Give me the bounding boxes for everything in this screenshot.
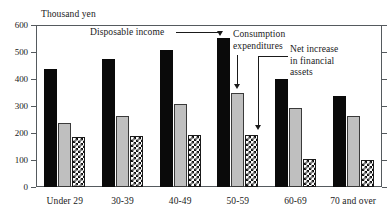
bar-disposable-income [275,79,288,187]
annotation-disposable-income-arrow [217,31,223,36]
bar-group [44,25,85,187]
bar-net-increase-in-financial-assets [188,135,201,187]
y-axis-tick-right [382,133,387,134]
annotation-disposable-income-leader [176,32,220,33]
y-axis-tick-label: 100 [0,156,28,165]
bar-net-increase-in-financial-assets [245,135,258,187]
y-axis-tick-right [382,187,387,188]
y-axis-tick-label: 600 [0,21,28,30]
bar-disposable-income [333,96,346,187]
x-axis-category-label: 50-59 [209,196,267,207]
x-axis-category-label: 40-49 [151,196,209,207]
annotation-net-increase-leader-v [258,56,259,126]
bar-disposable-income [217,38,230,187]
y-axis-tick [31,79,36,80]
y-axis-tick-right [382,79,387,80]
y-axis-tick-label: 200 [0,129,28,138]
y-axis-tick [31,160,36,161]
annotation-consumption-expenditures: Consumption expenditures [233,29,285,52]
annotation-consumption-expenditures-leader [237,55,238,85]
x-axis-category-label: 70 and over [324,196,382,207]
bar-disposable-income [102,59,115,187]
bar-disposable-income [44,69,57,187]
bar-group [333,25,374,187]
annotation-consumption-expenditures-arrow [234,84,240,89]
x-axis-category-label: 60-69 [267,196,325,207]
bar-group [102,25,143,187]
y-axis-tick-label: 500 [0,48,28,57]
bar-consumption-expenditures [289,108,302,187]
bar-consumption-expenditures [231,93,244,187]
bar-disposable-income [160,50,173,187]
y-axis-tick [31,52,36,53]
bar-chart: Thousand yen 6005004003002001000 Under 2… [0,0,392,221]
y-axis-tick-right [382,106,387,107]
y-axis-tick [31,25,36,26]
x-axis-category-label: Under 29 [36,196,94,207]
bar-consumption-expenditures [58,123,71,187]
bar-net-increase-in-financial-assets [130,136,143,187]
y-axis-tick [31,106,36,107]
bar-consumption-expenditures [347,116,360,187]
y-axis-tick-right [382,52,387,53]
bar-net-increase-in-financial-assets [303,159,316,187]
y-axis-tick-label: 300 [0,102,28,111]
bar-consumption-expenditures [174,104,187,187]
annotation-net-increase-arrow [255,125,261,130]
y-axis-unit-label: Thousand yen [41,9,96,20]
bar-consumption-expenditures [116,116,129,187]
annotation-net-increase-in-financial-assets: Net increase in financial assets [290,44,338,79]
bar-group [160,25,201,187]
y-axis-tick-label: 400 [0,75,28,84]
annotation-net-increase-leader-h [258,56,288,57]
x-axis-category-label: 30-39 [94,196,152,207]
y-axis-tick-label: 0 [0,183,28,192]
y-axis-tick-right [382,25,387,26]
y-axis-tick-right [382,160,387,161]
y-axis-tick [31,187,36,188]
bar-net-increase-in-financial-assets [361,160,374,187]
annotation-disposable-income: Disposable income [90,27,164,39]
bar-net-increase-in-financial-assets [72,137,85,187]
y-axis-tick [31,133,36,134]
